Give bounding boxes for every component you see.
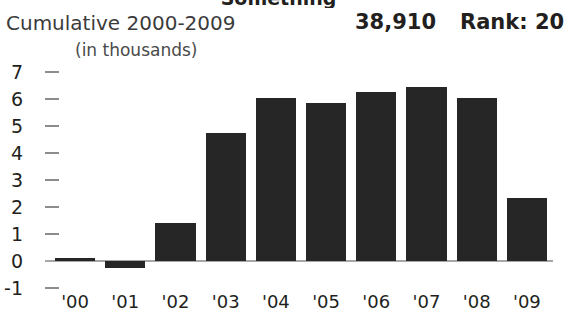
x-axis-tick-label: '09 <box>502 291 552 312</box>
bar[interactable] <box>206 133 246 261</box>
bar[interactable] <box>356 92 396 261</box>
bar[interactable] <box>105 261 145 268</box>
x-axis-tick-label: '08 <box>452 291 502 312</box>
bar[interactable] <box>306 103 346 261</box>
bar[interactable] <box>55 258 95 261</box>
x-axis-tick-label: '01 <box>100 291 150 312</box>
x-axis-tick-label: '02 <box>150 291 200 312</box>
bar[interactable] <box>507 198 547 261</box>
x-axis-tick-label: '07 <box>401 291 451 312</box>
x-axis-tick-label: '04 <box>251 291 301 312</box>
x-axis-tick-label: '06 <box>351 291 401 312</box>
bar[interactable] <box>155 223 195 261</box>
x-axis-tick-label: '05 <box>301 291 351 312</box>
x-axis-tick-label: '00 <box>50 291 100 312</box>
bar[interactable] <box>256 98 296 261</box>
bar[interactable] <box>406 87 446 261</box>
x-axis-tick-label: '03 <box>201 291 251 312</box>
bar[interactable] <box>457 98 497 261</box>
